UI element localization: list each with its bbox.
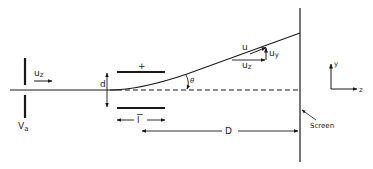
plate-positive-sign: +	[138, 61, 146, 71]
velocity-label: u	[242, 42, 248, 52]
axis-y-label: y	[334, 60, 338, 68]
deflection-angle-arc	[186, 75, 188, 89]
accelerating-voltage-label: Va	[18, 121, 28, 133]
screen-label: Screen	[310, 122, 334, 130]
plate-separation-label: d	[100, 79, 106, 89]
deflection-angle-label: θ	[190, 77, 195, 85]
screen-distance-label: D	[225, 126, 232, 136]
plate-length-label: l	[137, 115, 140, 125]
axis-z-label: z	[359, 86, 363, 94]
initial-velocity-label: uz	[34, 68, 44, 79]
velocity-z-label: uz	[242, 60, 252, 71]
screen-pointer	[302, 110, 316, 120]
velocity-y-label: uy	[269, 48, 279, 59]
deflection-diagram: Va uz + − d l θ u uy uz Screen	[0, 0, 373, 169]
